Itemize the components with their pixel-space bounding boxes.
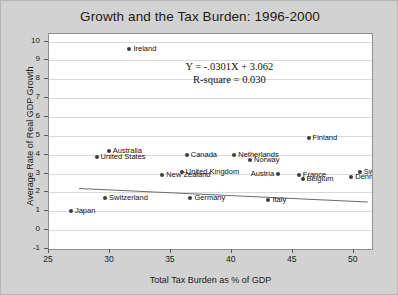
y-axis-tick-label: 5: [26, 131, 40, 139]
data-point-marker: [276, 172, 280, 176]
y-axis-tick: [44, 191, 48, 192]
data-point-label: Denmark: [355, 173, 373, 181]
data-point-label: Ireland: [133, 45, 156, 53]
y-axis-tick-label: -1: [26, 244, 40, 252]
data-point-label: Finland: [313, 134, 338, 142]
y-axis-tick-label: 10: [26, 37, 40, 45]
y-axis-tick: [44, 154, 48, 155]
x-axis-tick: [109, 249, 110, 253]
data-point-label: Germany: [194, 194, 225, 202]
y-axis-tick-label: 7: [26, 93, 40, 101]
y-axis-tick: [44, 116, 48, 117]
x-axis-title: Total Tax Burden as % of GDP: [48, 275, 373, 285]
data-point-marker: [188, 196, 192, 200]
y-axis-tick-label: 3: [26, 169, 40, 177]
x-axis-tick: [48, 249, 49, 253]
plot-area: IrelandFinlandAustraliaUnited StatesCana…: [48, 33, 373, 250]
x-axis-tick-label: 45: [280, 255, 304, 264]
data-point-label: Italy: [272, 196, 286, 204]
y-axis-tick-label: 6: [26, 112, 40, 120]
x-axis-tick-label: 25: [36, 255, 60, 264]
x-axis-tick-label: 35: [158, 255, 182, 264]
chart-title: Growth and the Tax Burden: 1996-2000: [1, 9, 398, 24]
gridline: [49, 98, 372, 99]
regression-r-square: R-square = 0.030: [186, 73, 274, 86]
data-point-marker: [127, 47, 131, 51]
data-point-marker: [297, 173, 301, 177]
data-point-marker: [307, 136, 311, 140]
regression-equation: Y = -.0301X + 3.062: [186, 60, 274, 73]
data-point-label: United States: [101, 153, 146, 161]
y-axis-tick: [44, 41, 48, 42]
y-axis-tick: [44, 229, 48, 230]
y-axis-tick: [44, 135, 48, 136]
x-axis-tick: [353, 249, 354, 253]
y-axis-tick-label: 9: [26, 55, 40, 63]
data-point-marker: [349, 175, 353, 179]
y-axis-tick-label: 8: [26, 74, 40, 82]
data-point-marker: [266, 198, 270, 202]
data-point-marker: [185, 153, 189, 157]
data-point-marker: [95, 155, 99, 159]
data-point-label: Belgium: [307, 175, 334, 183]
y-axis-tick: [44, 78, 48, 79]
data-point-label: Switzerland: [109, 194, 148, 202]
x-axis-tick: [170, 249, 171, 253]
gridline: [49, 117, 372, 118]
data-point-marker: [248, 158, 252, 162]
y-axis-tick: [44, 97, 48, 98]
data-point-label: New Zealand: [166, 171, 210, 179]
data-point-marker: [69, 209, 73, 213]
gridline: [49, 230, 372, 231]
chart-figure: Growth and the Tax Burden: 1996-2000 Ave…: [0, 0, 398, 295]
y-axis-tick: [44, 173, 48, 174]
data-point-marker: [232, 153, 236, 157]
data-point-marker: [301, 177, 305, 181]
data-point-label: Canada: [191, 151, 217, 159]
y-axis-tick-label: 2: [26, 187, 40, 195]
gridline: [49, 42, 372, 43]
regression-annotation: Y = -.0301X + 3.062 R-square = 0.030: [186, 60, 274, 86]
x-axis-tick-label: 50: [341, 255, 365, 264]
data-point-marker: [103, 196, 107, 200]
data-point-label: Japan: [75, 207, 95, 215]
gridline: [49, 211, 372, 212]
data-point-marker: [160, 173, 164, 177]
y-axis-tick-label: 4: [26, 150, 40, 158]
y-axis-tick: [44, 210, 48, 211]
y-axis-tick: [44, 59, 48, 60]
x-axis-tick-label: 30: [97, 255, 121, 264]
x-axis-tick: [231, 249, 232, 253]
x-axis-tick: [292, 249, 293, 253]
y-axis-tick-label: 1: [26, 206, 40, 214]
data-point-label: Austria: [251, 170, 274, 178]
x-axis-tick-label: 40: [219, 255, 243, 264]
data-point-label: Norway: [254, 156, 279, 164]
y-axis-tick-label: 0: [26, 225, 40, 233]
